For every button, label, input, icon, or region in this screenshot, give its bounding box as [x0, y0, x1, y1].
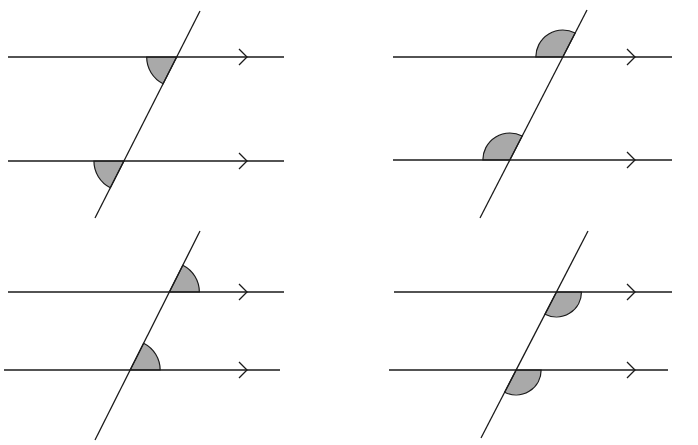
panel-top-right [393, 10, 672, 218]
shaded-angle-1 [169, 265, 199, 292]
transversal-line [95, 11, 200, 218]
parallel-lines-diagram [0, 0, 698, 445]
shaded-angle-2 [94, 161, 124, 188]
panel-bottom-left [4, 231, 284, 440]
shaded-angle-2 [130, 343, 160, 370]
transversal-line [480, 10, 587, 218]
transversal-line [95, 231, 200, 440]
panel-top-left [8, 11, 284, 218]
transversal-line [481, 231, 588, 438]
shaded-angle-1 [147, 57, 177, 84]
panel-bottom-right [389, 231, 672, 438]
